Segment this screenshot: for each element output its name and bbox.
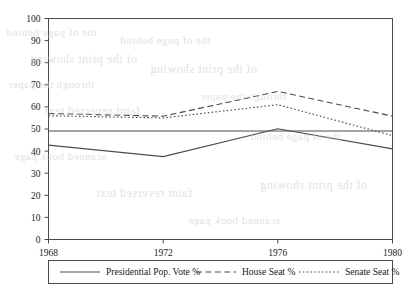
x-tick-label: 1980	[383, 248, 402, 258]
y-tick-label: 80	[31, 58, 41, 68]
series-line-house-seat	[49, 91, 393, 116]
legend-label-2: House Seat %	[242, 267, 295, 277]
y-tick-label: 40	[31, 147, 41, 157]
plot-area-border	[49, 19, 393, 240]
y-tick-label: 20	[31, 191, 41, 201]
y-tick-label: 50	[31, 124, 41, 134]
y-tick-label: 90	[31, 36, 41, 46]
y-tick-label: 30	[31, 169, 41, 179]
x-tick-label: 1976	[268, 248, 287, 258]
x-tick-label: 1968	[39, 248, 58, 258]
y-tick-label: 60	[31, 102, 41, 112]
x-axis: 1968197219761980	[39, 240, 402, 258]
y-axis: 0102030405060708090100	[26, 14, 48, 245]
line-chart: 0102030405060708090100 1968197219761980 …	[0, 0, 417, 292]
series-line-presidential-pop-vote	[49, 129, 393, 157]
y-tick-label: 100	[26, 14, 41, 24]
x-tick-label: 1972	[154, 248, 173, 258]
y-tick-label: 10	[31, 213, 41, 223]
data-series-group	[49, 91, 393, 156]
y-tick-label: 0	[36, 235, 41, 245]
y-tick-label: 70	[31, 80, 41, 90]
legend-label-3: Senate Seat %	[345, 267, 399, 277]
chart-legend: Presidential Pop. Vote %House Seat %Sena…	[49, 261, 400, 284]
legend-label-1: Presidential Pop. Vote %	[106, 267, 200, 277]
chart-figure: 0102030405060708090100 1968197219761980 …	[0, 0, 417, 292]
